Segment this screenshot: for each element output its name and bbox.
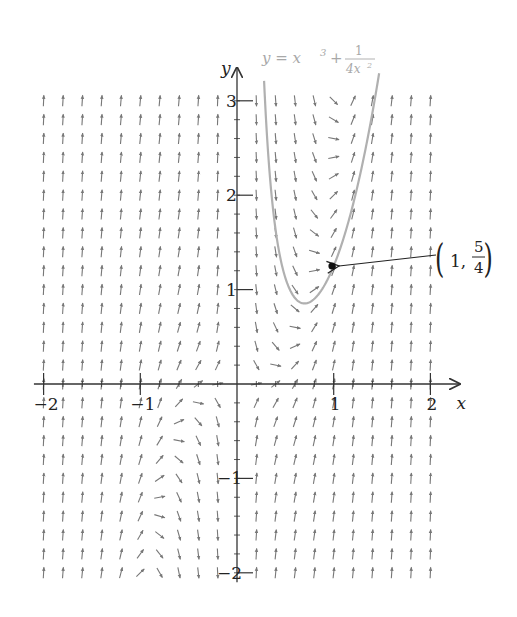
slope-arrow: [43, 265, 44, 276]
slope-arrow: [101, 190, 102, 201]
slope-arrow: [101, 322, 102, 333]
slope-arrow: [391, 473, 392, 484]
slope-arrow: [351, 115, 355, 125]
slope-arrow: [275, 114, 276, 125]
slope-arrow: [293, 266, 298, 276]
slope-arrow: [198, 190, 199, 201]
slope-arrow: [411, 454, 412, 465]
slope-arrow: [256, 209, 257, 220]
slope-arrow: [352, 435, 353, 446]
slope-arrow: [139, 322, 141, 333]
slope-arrow: [310, 230, 319, 237]
slope-arrow: [159, 228, 161, 239]
slope-arrow: [275, 454, 277, 465]
slope-arrow: [159, 209, 160, 220]
x-tick-label: −2: [34, 394, 59, 414]
slope-arrow: [43, 567, 44, 578]
slope-arrow: [138, 511, 143, 521]
slope-arrow: [120, 511, 122, 522]
slope-arrow: [120, 341, 121, 352]
slope-arrow: [353, 567, 354, 578]
slope-arrow: [293, 417, 296, 427]
slope-arrow: [139, 454, 142, 465]
slope-arrow: [329, 117, 339, 123]
slope-arrow: [140, 284, 142, 295]
slope-arrow: [330, 97, 338, 105]
svg-text:1,: 1,: [450, 251, 466, 271]
slope-arrow: [275, 548, 276, 559]
slope-arrow: [139, 360, 141, 371]
slope-arrow: [430, 360, 431, 371]
slope-arrow: [256, 530, 257, 541]
slope-arrow: [120, 454, 122, 465]
slope-arrow: [140, 265, 142, 276]
slope-arrow: [217, 322, 219, 333]
slope-arrow: [217, 530, 218, 541]
slope-arrow: [215, 360, 220, 370]
slope-arrow: [159, 284, 161, 295]
slope-arrow: [313, 435, 315, 446]
slope-arrow: [178, 228, 180, 239]
slope-arrow: [198, 228, 199, 239]
slope-arrow: [411, 435, 412, 446]
slope-arrow: [43, 511, 44, 522]
slope-arrow: [372, 190, 374, 201]
slope-arrow: [82, 190, 83, 201]
slope-arrow: [256, 190, 257, 201]
slope-arrow: [82, 530, 83, 541]
slope-arrow: [391, 397, 392, 408]
slope-arrow: [294, 171, 296, 182]
slope-arrow: [120, 209, 121, 220]
slope-arrow: [294, 511, 296, 522]
slope-arrow: [43, 492, 44, 503]
slope-arrow: [63, 152, 64, 163]
slope-arrow: [198, 567, 199, 578]
slope-arrow: [372, 265, 373, 276]
slope-arrow: [82, 435, 83, 446]
slope-arrow: [430, 322, 431, 333]
slope-arrow: [411, 360, 412, 371]
slope-arrow: [82, 152, 83, 163]
slope-arrow: [333, 567, 334, 578]
slope-arrow: [82, 473, 83, 484]
slope-arrow: [158, 341, 161, 352]
slope-arrow: [175, 399, 182, 407]
slope-arrow: [311, 304, 318, 312]
slope-arrow: [333, 511, 334, 522]
slope-arrow: [139, 416, 142, 427]
slope-arrow: [313, 398, 316, 409]
svg-text:): ): [484, 234, 493, 281]
slope-arrow: [430, 454, 431, 465]
slope-arrow: [309, 250, 320, 253]
slope-arrow: [312, 323, 318, 332]
slope-arrow: [272, 342, 279, 350]
slope-arrow: [372, 246, 373, 257]
slope-arrow: [312, 171, 316, 181]
slope-arrow: [217, 265, 218, 276]
slope-arrow: [158, 322, 160, 333]
slope-arrow: [294, 435, 297, 446]
slope-arrow: [82, 322, 83, 333]
slope-arrow: [411, 511, 412, 522]
slope-arrow: [120, 171, 121, 182]
slope-arrow: [43, 133, 44, 144]
slope-arrow: [294, 454, 296, 465]
slope-arrow: [177, 492, 182, 502]
slope-arrow: [352, 492, 353, 503]
slope-arrow: [63, 133, 64, 144]
slope-arrow: [63, 114, 64, 125]
slope-arrow: [101, 416, 102, 427]
slope-arrow: [372, 530, 373, 541]
slope-arrow: [120, 265, 121, 276]
slope-arrow: [430, 548, 431, 559]
slope-arrow: [391, 360, 392, 371]
slope-arrow: [372, 435, 373, 446]
slope-arrow: [372, 360, 373, 371]
slope-arrow: [196, 436, 201, 446]
slope-arrow: [312, 152, 316, 162]
slope-arrow: [391, 171, 392, 182]
slope-arrow: [351, 96, 356, 106]
slope-arrow: [294, 133, 296, 144]
slope-arrow: [411, 548, 412, 559]
slope-arrow: [120, 473, 122, 484]
